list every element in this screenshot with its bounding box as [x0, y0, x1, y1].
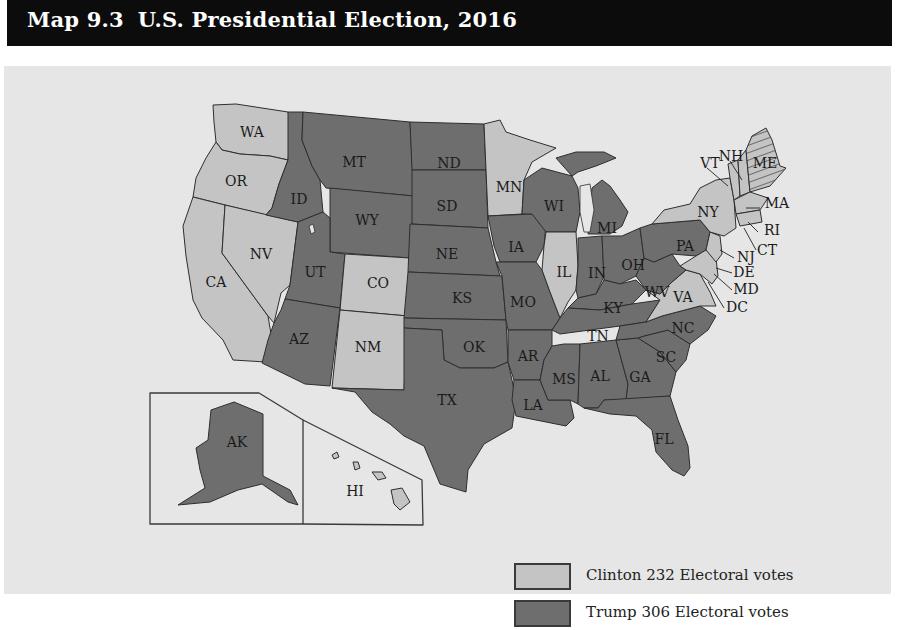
label-ID: ID: [291, 191, 308, 207]
state-HI-1: [332, 452, 339, 459]
label-NE: NE: [436, 246, 458, 262]
legend-item-trump: Trump 306 Electoral votes: [514, 600, 814, 630]
label-SD: SD: [437, 198, 458, 214]
label-UT: UT: [304, 264, 326, 280]
label-DC: DC: [726, 299, 748, 315]
label-NC: NC: [672, 320, 695, 336]
label-MN: MN: [496, 179, 523, 195]
legend-swatch-clinton: [514, 563, 571, 590]
label-OR: OR: [225, 173, 247, 189]
label-VA: VA: [672, 289, 693, 305]
label-ND: ND: [437, 155, 460, 171]
label-AR: AR: [517, 348, 539, 364]
state-MI-UP: [556, 152, 616, 176]
label-AZ: AZ: [288, 331, 309, 347]
label-OH: OH: [621, 257, 645, 273]
map-panel: WA OR CA NV ID MT WY UT CO AZ NM ND SD N…: [4, 66, 891, 594]
map-number: Map 9.3: [27, 7, 124, 32]
label-WY: WY: [355, 212, 379, 228]
label-DE: DE: [733, 264, 754, 280]
map-title-text: U.S. Presidential Election, 2016: [138, 7, 517, 32]
label-OK: OK: [463, 339, 485, 355]
label-PA: PA: [676, 238, 695, 254]
label-IN: IN: [588, 265, 606, 281]
label-NH: NH: [719, 148, 743, 164]
label-GA: GA: [629, 369, 651, 385]
label-WI: WI: [544, 198, 564, 214]
state-FL: [584, 396, 690, 476]
label-MI: MI: [597, 220, 617, 236]
label-AL: AL: [589, 368, 609, 384]
legend-label-clinton: Clinton 232 Electoral votes: [586, 566, 794, 584]
label-TN: TN: [587, 328, 609, 344]
label-NY: NY: [697, 204, 719, 220]
state-HI-2: [353, 462, 360, 470]
label-IL: IL: [557, 264, 572, 280]
state-HI-3: [372, 472, 386, 480]
label-KS: KS: [452, 290, 472, 306]
label-NJ: NJ: [737, 249, 755, 265]
label-CT: CT: [757, 242, 778, 258]
label-MT: MT: [342, 154, 366, 170]
label-HI: HI: [346, 483, 364, 499]
label-LA: LA: [523, 397, 543, 413]
label-KY: KY: [603, 300, 623, 316]
legend-label-trump: Trump 306 Electoral votes: [586, 603, 789, 621]
label-MD: MD: [733, 281, 759, 297]
state-HI-4: [391, 488, 410, 510]
title-bar: Map 9.3U.S. Presidential Election, 2016: [7, 0, 892, 46]
label-NV: NV: [250, 246, 273, 262]
label-ME: ME: [753, 155, 778, 171]
label-CA: CA: [206, 274, 228, 290]
label-SC: SC: [656, 349, 676, 365]
label-FL: FL: [654, 431, 673, 447]
label-MA: MA: [765, 195, 790, 211]
label-MO: MO: [510, 294, 536, 310]
label-CO: CO: [367, 275, 389, 291]
label-AK: AK: [226, 434, 248, 450]
state-AK: [178, 402, 298, 505]
label-VT: VT: [699, 155, 720, 171]
label-WV: WV: [645, 284, 670, 300]
label-TX: TX: [437, 392, 456, 408]
label-IA: IA: [508, 239, 525, 255]
label-NM: NM: [355, 339, 382, 355]
label-RI: RI: [764, 222, 780, 238]
label-WA: WA: [240, 124, 265, 140]
us-election-map: WA OR CA NV ID MT WY UT CO AZ NM ND SD N…: [4, 66, 891, 594]
legend-swatch-trump: [514, 600, 571, 627]
label-MS: MS: [552, 371, 576, 387]
map-title: Map 9.3U.S. Presidential Election, 2016: [27, 7, 517, 32]
legend-item-clinton: Clinton 232 Electoral votes: [514, 563, 814, 593]
